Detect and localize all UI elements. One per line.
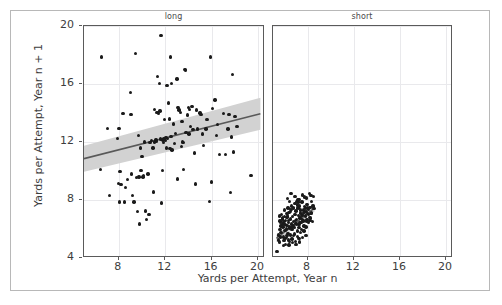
y-tick-label: 16 <box>52 76 74 89</box>
data-point <box>132 200 135 203</box>
data-point <box>293 232 296 235</box>
y-tick-label: 12 <box>52 134 74 147</box>
data-point <box>159 34 162 37</box>
data-point <box>208 200 211 203</box>
data-point <box>210 180 213 183</box>
data-point <box>287 243 290 246</box>
x-tick-mark <box>353 257 354 260</box>
data-point <box>161 169 164 172</box>
panel-title-long: long <box>83 12 264 21</box>
data-point <box>205 118 208 121</box>
data-point <box>294 209 297 212</box>
data-point <box>308 219 311 222</box>
data-point <box>230 135 233 138</box>
data-point <box>194 182 197 185</box>
data-point <box>233 115 236 118</box>
data-point <box>170 148 173 151</box>
data-point <box>199 113 202 116</box>
y-tick-label: 20 <box>52 18 74 31</box>
data-point <box>193 151 196 154</box>
data-point <box>302 229 305 232</box>
y-tick-label: 8 <box>52 192 74 205</box>
data-point <box>144 209 147 212</box>
y-tick-mark <box>79 199 82 200</box>
data-point <box>296 203 299 206</box>
data-point <box>100 55 103 58</box>
data-point <box>147 213 150 216</box>
data-point <box>175 77 178 80</box>
x-tick-mark <box>257 257 258 260</box>
data-point <box>152 190 155 193</box>
panel-title-short: short <box>272 12 452 21</box>
y-axis-label: Yards per Attempt, Year n + 1 <box>32 26 45 226</box>
data-point <box>281 216 284 219</box>
data-point <box>137 175 140 178</box>
data-point <box>290 226 293 229</box>
data-point <box>168 117 171 120</box>
data-point <box>306 206 309 209</box>
y-tick-mark <box>79 141 82 142</box>
scatter-panel-short <box>272 25 452 257</box>
data-point <box>169 55 172 58</box>
data-point <box>304 225 307 228</box>
x-tick-mark <box>164 257 165 260</box>
data-point <box>165 84 168 87</box>
data-point <box>209 55 212 58</box>
data-point <box>285 216 288 219</box>
y-tick-mark <box>79 25 82 26</box>
data-point <box>139 146 142 149</box>
x-tick-mark <box>399 257 400 260</box>
data-point <box>172 122 175 125</box>
data-point <box>279 224 282 227</box>
data-point <box>129 113 132 116</box>
data-point <box>300 200 303 203</box>
scatter-panel-long <box>83 25 264 257</box>
data-point <box>179 111 182 114</box>
data-point <box>300 214 303 217</box>
data-point <box>118 200 121 203</box>
data-point <box>186 113 189 116</box>
y-tick-mark <box>79 257 82 258</box>
data-point <box>158 109 161 112</box>
data-point <box>226 127 229 130</box>
data-point <box>249 174 252 177</box>
data-point <box>190 105 193 108</box>
data-point <box>275 250 278 253</box>
data-point <box>117 127 120 130</box>
data-point <box>289 192 292 195</box>
data-point <box>304 234 307 237</box>
data-point <box>187 132 190 135</box>
data-point <box>169 135 172 138</box>
x-tick-mark <box>211 257 212 260</box>
data-point <box>213 98 216 101</box>
data-point <box>146 172 149 175</box>
data-point <box>139 169 142 172</box>
data-point <box>130 172 133 175</box>
data-point <box>215 134 218 137</box>
y-tick-label: 4 <box>52 250 74 263</box>
x-tick-mark <box>118 257 119 260</box>
y-tick-mark <box>79 83 82 84</box>
data-point <box>298 240 301 243</box>
data-point <box>227 113 230 116</box>
x-tick-mark <box>445 257 446 260</box>
data-point <box>278 240 281 243</box>
data-point <box>143 140 146 143</box>
data-point <box>204 127 207 130</box>
data-point <box>176 177 179 180</box>
data-point <box>167 101 170 104</box>
data-point <box>279 235 282 238</box>
data-point <box>302 211 305 214</box>
figure-container: long short 4812162081216208121620 Yards … <box>0 0 502 305</box>
data-point <box>140 155 143 158</box>
data-point <box>278 214 281 217</box>
data-point <box>151 146 154 149</box>
data-point <box>201 132 204 135</box>
data-point <box>158 82 161 85</box>
x-tick-mark <box>307 257 308 260</box>
x-axis-label: Yards per Attempt, Year n <box>83 272 452 285</box>
